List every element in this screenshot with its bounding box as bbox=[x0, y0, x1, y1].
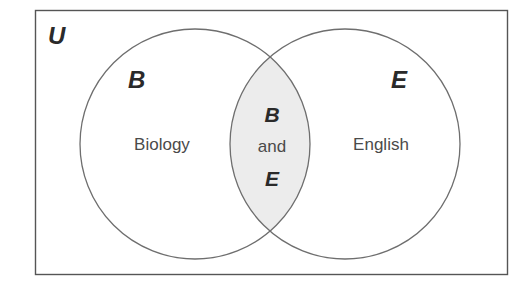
set-e-name: English bbox=[353, 135, 409, 154]
intersection-letter-b: B bbox=[264, 103, 279, 126]
venn-diagram: U B Biology E English B and E bbox=[0, 0, 529, 290]
universe-label: U bbox=[48, 22, 66, 49]
set-b-letter: B bbox=[128, 66, 145, 93]
set-b-name: Biology bbox=[134, 135, 190, 154]
intersection-letter-e: E bbox=[265, 167, 280, 190]
set-e-letter: E bbox=[391, 66, 408, 93]
intersection-and-label: and bbox=[258, 137, 286, 156]
